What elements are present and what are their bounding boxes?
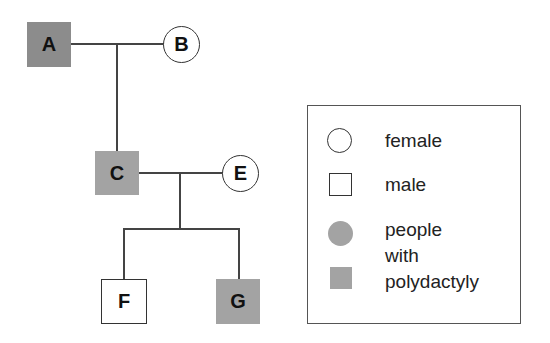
individual-B-female: B: [163, 26, 200, 63]
female-symbol-icon: [327, 128, 352, 153]
mating-line-C-E: [139, 172, 223, 174]
individual-F-male: F: [101, 279, 147, 324]
label-C: C: [110, 162, 124, 185]
label-G: G: [230, 290, 246, 313]
legend-affected-label-line1: people: [385, 218, 442, 242]
descent-line-to-F: [123, 228, 125, 280]
legend-affected-label-line3: polydactyly: [385, 270, 479, 294]
individual-E-female: E: [222, 155, 259, 192]
affected-male-symbol-icon: [330, 267, 352, 289]
legend-box: female male people with polydactyly: [307, 105, 521, 324]
individual-A-affected-male: A: [27, 22, 71, 67]
legend-affected-label-line2: with: [385, 244, 419, 268]
male-symbol-icon: [329, 173, 352, 196]
descent-line-to-G: [238, 228, 240, 280]
label-E: E: [234, 162, 247, 185]
sibship-line: [123, 228, 239, 230]
individual-G-affected-male: G: [216, 279, 260, 324]
descent-line-to-sibship: [179, 172, 181, 229]
label-A: A: [42, 33, 56, 56]
legend-male-label: male: [385, 173, 426, 197]
individual-C-affected-male: C: [95, 151, 139, 195]
mating-line-A-B: [71, 43, 164, 45]
label-B: B: [174, 33, 188, 56]
descent-line-to-C: [116, 43, 118, 151]
affected-female-symbol-icon: [328, 221, 353, 246]
label-F: F: [118, 290, 130, 313]
legend-female-label: female: [385, 129, 442, 153]
